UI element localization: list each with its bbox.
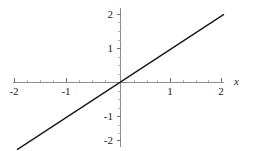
y-tick-label-neg2: -2	[104, 135, 113, 146]
x-axis-ticks	[15, 78, 222, 82]
x-tick-label-neg1: -1	[61, 86, 70, 97]
plot-canvas	[0, 0, 261, 151]
x-tick-label-pos1: 1	[167, 86, 173, 97]
x-axis-label: x	[234, 76, 239, 87]
y-tick-label-pos1: 1	[108, 43, 114, 54]
x-tick-label-pos2: 2	[218, 86, 224, 97]
y-tick-label-pos2: 2	[108, 9, 114, 20]
y-tick-label-neg1: -1	[104, 111, 113, 122]
line-plot: -2 -1 1 2 2 1 -1 -2 x	[0, 0, 261, 151]
x-tick-label-neg2: -2	[9, 86, 18, 97]
